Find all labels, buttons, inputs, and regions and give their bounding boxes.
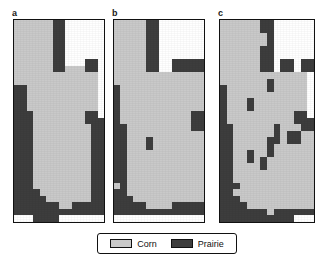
panel-label-c: c	[218, 8, 223, 18]
map-cell-empty	[307, 215, 314, 222]
legend-entry-corn: Corn	[110, 239, 157, 249]
map-cell-prairie	[287, 215, 294, 222]
map-grid-a	[14, 20, 104, 222]
legend-label-prairie: Prairie	[198, 239, 224, 249]
legend-label-corn: Corn	[137, 239, 157, 249]
map-cell-empty	[301, 215, 308, 222]
map-cell-prairie	[267, 215, 274, 222]
map-cell-prairie	[274, 215, 281, 222]
map-cell-prairie	[247, 215, 254, 222]
map-canvas-a	[13, 19, 105, 223]
map-cell-empty	[198, 215, 204, 222]
legend: Corn Prairie	[97, 233, 237, 254]
map-cell-prairie	[227, 215, 234, 222]
map-panel-b: b	[112, 8, 208, 226]
map-cell-prairie	[280, 215, 287, 222]
map-cell-empty	[98, 215, 104, 222]
map-grid-c	[220, 20, 314, 222]
map-cell-prairie	[220, 215, 227, 222]
map-canvas-c	[219, 19, 315, 223]
map-cell-prairie	[240, 215, 247, 222]
legend-swatch-prairie-icon	[171, 239, 193, 248]
panel-row: a b c	[0, 0, 331, 228]
map-cell-prairie	[233, 215, 240, 222]
map-cell-prairie	[254, 215, 261, 222]
map-panel-c: c	[218, 8, 318, 226]
map-panel-a: a	[12, 8, 108, 226]
map-cell-prairie	[260, 215, 267, 222]
figure-root: a b c Corn	[0, 0, 331, 267]
panel-label-b: b	[112, 8, 118, 18]
legend-swatch-corn-icon	[110, 239, 132, 248]
map-cell-empty	[294, 215, 301, 222]
map-grid-b	[114, 20, 204, 222]
map-canvas-b	[113, 19, 205, 223]
panel-label-a: a	[12, 8, 17, 18]
legend-entry-prairie: Prairie	[171, 239, 224, 249]
